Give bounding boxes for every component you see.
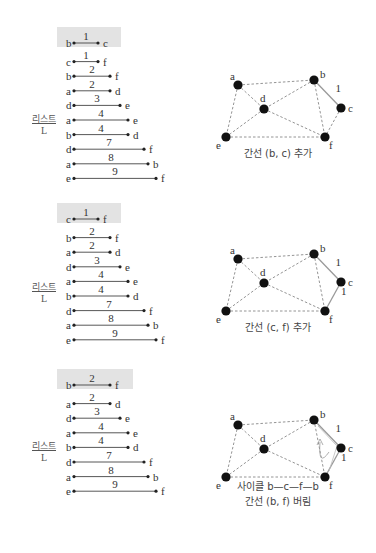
edge-end-vertex: d (133, 441, 139, 453)
edge-end-vertex: b (153, 471, 159, 483)
graph-3: 11abcdef (216, 408, 353, 491)
edge-weight: 2 (89, 372, 95, 384)
mst-edge-c-f (325, 448, 341, 477)
edge-start-vertex: a (66, 427, 71, 439)
edge-weight: 2 (89, 391, 95, 403)
edge-weight: 4 (98, 434, 104, 446)
edge-start-vertex: d (66, 412, 72, 424)
edge-end-vertex: d (115, 398, 121, 410)
dashed-edge-d-f (264, 449, 325, 477)
edge-weight: 8 (108, 464, 114, 476)
vertex-label-d: d (260, 432, 266, 444)
dashed-edge-a-b (238, 420, 314, 425)
edge-list-item: ef9 (66, 478, 165, 497)
edge-start-vertex: e (66, 485, 71, 497)
vertex-label-e: e (216, 479, 221, 491)
edge-start-vertex: d (66, 456, 72, 468)
dashed-edge-a-e (226, 425, 238, 477)
edge-start-vertex: b (66, 441, 72, 453)
edge-weight: 3 (94, 405, 100, 417)
vertex-e (221, 472, 230, 481)
edge-weight: 9 (112, 478, 118, 490)
vertex-label-b: b (320, 408, 326, 420)
edge-end-vertex: f (161, 485, 165, 497)
edge-weight: 4 (98, 420, 104, 432)
edge-end-vertex: f (115, 379, 119, 391)
edge-end-vertex: f (149, 456, 153, 468)
dashed-edge-b-d (264, 420, 314, 449)
graph-caption: 간선 (b, f) 버림 (245, 496, 311, 507)
step-panel-3: 리스트Lbf2ad2de3ae4bd4df7ab8ef911abcdef사이클 … (0, 0, 376, 553)
vertex-label-f: f (329, 479, 333, 491)
edge-start-vertex: b (66, 379, 72, 391)
vertex-d (259, 444, 268, 453)
vertex-c (336, 443, 345, 452)
vertex-b (309, 415, 318, 424)
mst-edge-weight: 1 (336, 422, 342, 434)
edge-start-vertex: a (66, 471, 71, 483)
edge-start-vertex: a (66, 398, 71, 410)
edge-weight: 7 (106, 449, 112, 461)
edge-end-vertex: e (133, 427, 138, 439)
vertex-label-c: c (348, 442, 353, 454)
edge-list-item-current: bf2 (57, 369, 133, 391)
vertex-label-a: a (230, 410, 235, 422)
edge-end-vertex: e (125, 412, 130, 424)
edge-list: bf2ad2de3ae4bd4df7ab8ef911abcdef사이클 b—c—… (0, 0, 376, 553)
graph-caption: 사이클 b—c—f—b (237, 481, 319, 492)
edge-list-item: bd4 (66, 434, 139, 453)
